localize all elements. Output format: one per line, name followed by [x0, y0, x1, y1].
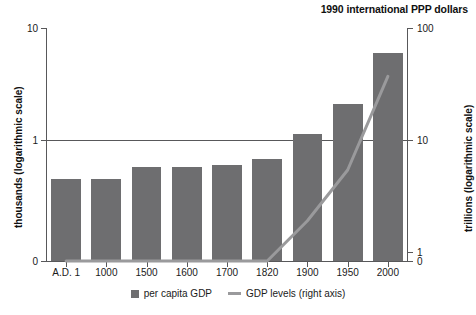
line-series-gdp-levels: [46, 28, 408, 262]
x-axis-tick-label: 1000: [95, 267, 117, 278]
y-axis-left-tick-label: 10: [27, 23, 38, 34]
y-axis-right-tick: [408, 261, 413, 262]
legend-square-icon: [131, 290, 139, 298]
y-axis-right-tick: [408, 140, 413, 141]
y-axis-right-tick: [408, 252, 413, 253]
y-axis-right-tick-label: 0: [417, 256, 423, 267]
legend-item: GDP levels (right axis): [228, 288, 345, 299]
chart-legend: per capita GDPGDP levels (right axis): [0, 288, 476, 299]
x-axis-tick-label: 1500: [135, 267, 157, 278]
x-axis-tick-label: A.D. 1: [52, 267, 80, 278]
chart-figure: 1990 international PPP dollars thousands…: [0, 0, 476, 315]
chart-title: 1990 international PPP dollars: [321, 3, 468, 15]
y-axis-right-tick-label: 100: [417, 23, 434, 34]
x-axis-tick-label: 1600: [176, 267, 198, 278]
x-axis-tick-label: 1950: [337, 267, 359, 278]
y-axis-left-tick-label: 0: [32, 256, 38, 267]
x-axis-tick-label: 2000: [377, 267, 399, 278]
legend-label: per capita GDP: [144, 288, 212, 299]
legend-line-icon: [228, 292, 241, 295]
y-axis-right-title: trillions (logarithmic scale): [463, 105, 474, 232]
plot-area: 1010 1001010 A.D. 1100015001600170018201…: [46, 28, 408, 262]
x-axis-tick-label: 1820: [256, 267, 278, 278]
legend-label: GDP levels (right axis): [246, 288, 345, 299]
x-axis-tick-label: 1900: [296, 267, 318, 278]
x-axis-tick-label: 1700: [216, 267, 238, 278]
y-axis-left-title: thousands (logarithmic scale): [13, 86, 24, 228]
y-axis-left-tick-label: 1: [32, 135, 38, 146]
y-axis-right-tick: [408, 28, 413, 29]
y-axis-right-tick-label: 10: [417, 135, 428, 146]
legend-item: per capita GDP: [131, 288, 212, 299]
